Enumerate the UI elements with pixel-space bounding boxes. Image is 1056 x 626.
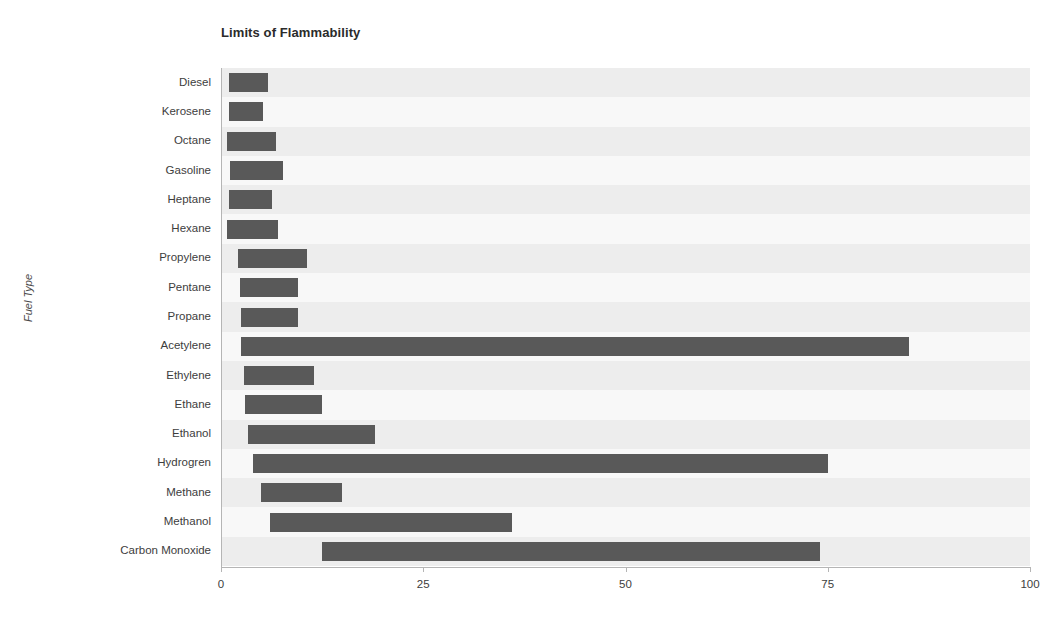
bar-gasoline bbox=[230, 161, 283, 180]
x-tick-mark bbox=[423, 567, 424, 572]
y-tick-label: Gasoline bbox=[0, 164, 211, 176]
y-tick-label: Methanol bbox=[0, 515, 211, 527]
row-band bbox=[221, 273, 1030, 302]
row-band bbox=[221, 68, 1030, 97]
y-tick-label: Ethylene bbox=[0, 369, 211, 381]
bar-hexane bbox=[227, 220, 277, 239]
x-tick-label: 25 bbox=[393, 578, 453, 590]
bar-ethane bbox=[245, 395, 322, 414]
x-tick-mark bbox=[828, 567, 829, 572]
y-tick-label: Ethane bbox=[0, 398, 211, 410]
y-tick-label: Hexane bbox=[0, 222, 211, 234]
bar-methane bbox=[261, 483, 342, 502]
y-axis-title: Fuel Type bbox=[22, 258, 34, 338]
row-band bbox=[221, 156, 1030, 185]
bar-propylene bbox=[238, 249, 307, 268]
bar-hydrogren bbox=[253, 454, 827, 473]
bar-acetylene bbox=[241, 337, 908, 356]
y-tick-label: Diesel bbox=[0, 76, 211, 88]
y-tick-label: Methane bbox=[0, 486, 211, 498]
x-tick-label: 50 bbox=[596, 578, 656, 590]
bar-octane bbox=[227, 132, 276, 151]
y-tick-label: Kerosene bbox=[0, 105, 211, 117]
x-tick-mark bbox=[626, 567, 627, 572]
x-tick-label: 75 bbox=[798, 578, 858, 590]
y-tick-label: Heptane bbox=[0, 193, 211, 205]
plot-area bbox=[221, 68, 1030, 566]
bar-ethanol bbox=[248, 425, 375, 444]
bar-pentane bbox=[240, 278, 298, 297]
bar-carbon-monoxide bbox=[322, 542, 820, 561]
row-band bbox=[221, 244, 1030, 273]
y-tick-label: Ethanol bbox=[0, 427, 211, 439]
row-band bbox=[221, 127, 1030, 156]
bar-ethylene bbox=[244, 366, 314, 385]
x-tick-label: 0 bbox=[191, 578, 251, 590]
y-tick-label: Carbon Monoxide bbox=[0, 544, 211, 556]
bar-heptane bbox=[229, 190, 272, 209]
bar-diesel bbox=[229, 73, 268, 92]
x-tick-mark bbox=[1030, 567, 1031, 572]
x-tick-mark bbox=[221, 567, 222, 572]
bar-methanol bbox=[270, 513, 513, 532]
y-tick-label: Hydrogren bbox=[0, 456, 211, 468]
row-band bbox=[221, 302, 1030, 331]
x-tick-label: 100 bbox=[1000, 578, 1056, 590]
row-band bbox=[221, 361, 1030, 390]
bar-propane bbox=[241, 308, 298, 327]
flammability-limits-chart: Limits of Flammability Fuel Type DieselK… bbox=[0, 0, 1056, 626]
row-band bbox=[221, 97, 1030, 126]
row-band bbox=[221, 214, 1030, 243]
bar-kerosene bbox=[229, 102, 263, 121]
chart-title: Limits of Flammability bbox=[221, 25, 360, 40]
row-band bbox=[221, 185, 1030, 214]
y-axis-line bbox=[221, 68, 222, 568]
row-band bbox=[221, 478, 1030, 507]
y-tick-label: Octane bbox=[0, 134, 211, 146]
y-tick-label: Acetylene bbox=[0, 339, 211, 351]
row-band bbox=[221, 390, 1030, 419]
